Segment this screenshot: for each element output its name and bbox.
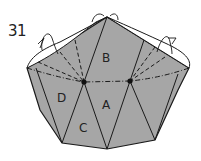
- origami-diagram: B D A C: [0, 0, 201, 161]
- label-b: B: [102, 51, 110, 65]
- label-a: A: [102, 98, 111, 112]
- label-d: D: [57, 91, 66, 105]
- reference-dot-right: [127, 78, 132, 83]
- label-c: C: [79, 121, 87, 135]
- reference-dot-left: [81, 79, 86, 84]
